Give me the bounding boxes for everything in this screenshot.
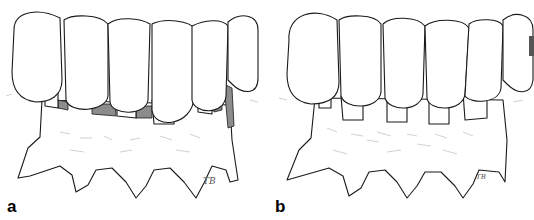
- artist-signature: TB: [203, 176, 216, 186]
- panel-b: TB b: [267, 0, 534, 220]
- panel-a: TB a: [0, 0, 267, 220]
- dental-bridge-illustration-b: [267, 0, 534, 220]
- artist-signature: TB: [476, 173, 486, 181]
- panel-label-b: b: [275, 198, 285, 215]
- panel-label-a: a: [7, 198, 16, 215]
- dental-bridge-illustration-a: [0, 0, 267, 220]
